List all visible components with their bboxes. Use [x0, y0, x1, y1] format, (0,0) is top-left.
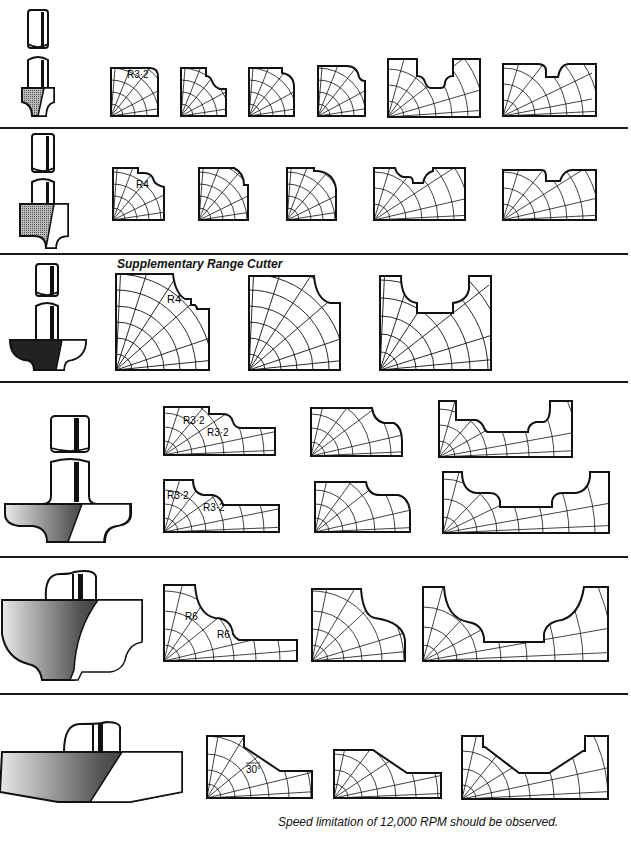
radius-label: R4 — [167, 293, 181, 305]
profile-drawing — [317, 65, 367, 117]
profile-drawing: R6 R6 — [163, 584, 299, 662]
radius-label: R6 — [217, 629, 230, 640]
profile-drawing — [310, 407, 404, 457]
radius-label: R3·2 — [203, 502, 225, 513]
angle-label: 30° — [246, 764, 261, 775]
router-cutter-icon — [14, 8, 64, 120]
profile-drawing — [379, 275, 494, 372]
section-divider — [0, 556, 628, 558]
profile-drawing — [422, 586, 610, 663]
profile-drawing — [333, 749, 443, 799]
profile-drawing — [180, 67, 228, 117]
profile-drawing — [198, 167, 250, 221]
section-divider — [0, 253, 628, 255]
profile-drawing: R3·2 R3·2 — [163, 406, 277, 456]
router-cutter-icon — [2, 414, 137, 544]
profile-drawing — [442, 471, 612, 535]
profile-drawing: R3·2 — [110, 67, 160, 117]
router-cutter-icon — [0, 560, 145, 685]
profile-drawing — [314, 481, 412, 533]
profile-drawing — [248, 275, 342, 371]
profile-drawing: 30° — [206, 735, 314, 799]
radius-label: R3·2 — [167, 490, 189, 501]
profile-drawing — [438, 400, 574, 458]
router-cutter-icon — [14, 132, 74, 250]
section-divider — [0, 693, 628, 695]
profile-drawing: R3·2 R3·2 — [163, 479, 281, 533]
profile-drawing — [387, 58, 482, 118]
section-divider — [0, 127, 628, 129]
radius-label: R3·2 — [127, 69, 149, 80]
profile-drawing — [373, 167, 467, 221]
profile-drawing: R4 — [115, 273, 211, 371]
section-divider — [0, 381, 628, 383]
radius-label: R3·2 — [183, 415, 205, 426]
radius-label: R3·2 — [207, 427, 229, 438]
profile-drawing — [502, 63, 598, 117]
profile-drawing: R4 — [112, 167, 166, 221]
profile-drawing — [248, 67, 296, 117]
profile-drawing — [311, 588, 409, 662]
radius-label: R4 — [136, 179, 149, 190]
profile-drawing — [461, 735, 611, 800]
router-cutter-icon — [0, 700, 185, 812]
radius-label: R6 — [185, 611, 198, 622]
router-cutter-icon — [8, 262, 88, 372]
profile-drawing — [286, 167, 338, 221]
section-title: Supplementary Range Cutter — [117, 257, 282, 271]
profile-drawing — [502, 169, 598, 221]
speed-limitation-note: Speed limitation of 12,000 RPM should be… — [278, 815, 558, 829]
